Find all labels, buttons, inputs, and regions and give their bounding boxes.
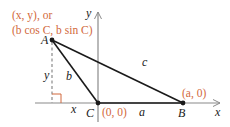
vertex-b-label: B — [178, 106, 186, 120]
vertex-b-point — [181, 101, 186, 106]
triangle-diagram: y x (x, y), or (b cos C, b sin C) A C B … — [0, 0, 230, 127]
x-axis-label: x — [214, 105, 221, 119]
vertex-c-coord: (0, 0) — [102, 106, 127, 119]
vertex-a-coord-line2: (b cos C, b sin C) — [12, 24, 93, 37]
vertex-a-coord-line1: (x, y), or — [12, 9, 52, 22]
side-c-label: c — [142, 55, 148, 69]
vertex-c-label: C — [86, 106, 95, 120]
side-a-label: a — [139, 105, 145, 119]
vertex-b-coord: (a, 0) — [182, 87, 206, 100]
right-angle-marker — [52, 94, 61, 103]
height-label: y — [43, 68, 50, 82]
vertex-a-point — [50, 38, 55, 43]
side-b-label: b — [66, 69, 72, 83]
vertex-a-label: A — [40, 33, 49, 47]
base-offset-label: x — [70, 102, 77, 116]
vertex-c-point — [96, 101, 101, 106]
y-axis-label: y — [85, 6, 92, 20]
